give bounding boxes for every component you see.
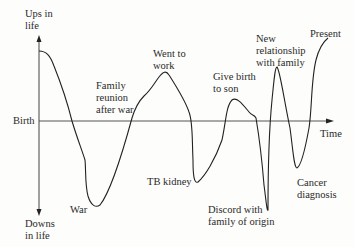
event-went-to-work: Went to work [153,48,186,72]
time-label: Time [320,128,342,140]
y-axis-bottom-label: Downs in life [25,218,55,242]
y-axis-top-label: Ups in life [25,8,53,32]
event-war: War [70,204,87,216]
arrow-right-icon [326,119,334,124]
event-family-reunion: Family reunion after war [96,80,134,116]
event-new-relationship: New relationship with family [256,33,306,69]
event-cancer: Cancer diagnosis [297,177,337,201]
event-tb-kidney: TB kidney [147,176,192,188]
birth-label: Birth [13,115,35,127]
arrow-down-icon [37,209,42,216]
event-give-birth: Give birth to son [213,71,256,95]
event-discord: Discord with family of origin [208,204,275,228]
event-present: Present [310,28,341,40]
arrow-up-icon [37,35,42,42]
